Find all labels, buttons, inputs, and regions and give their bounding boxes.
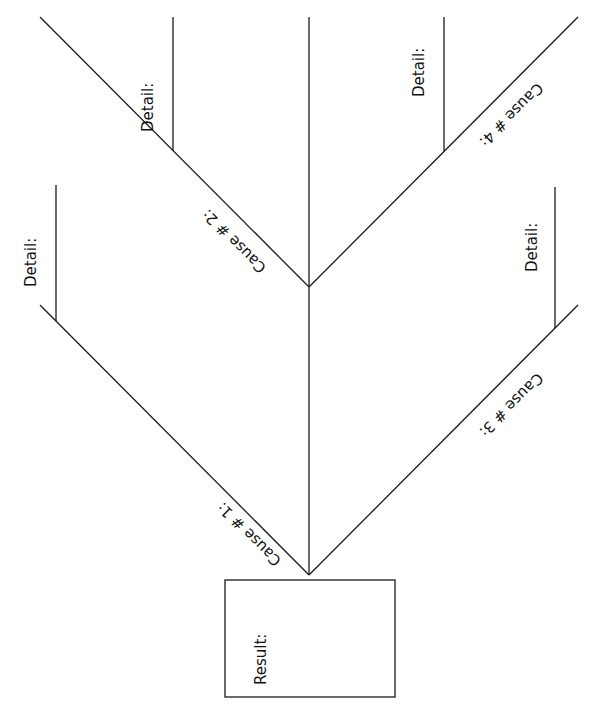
cause-2-label: Cause # 2:	[198, 206, 269, 277]
detail-1-label: Detail:	[22, 238, 40, 287]
result-label: Result:	[252, 634, 270, 685]
fishbone-diagram: Result: Detail: Detail: Detail: Detail: …	[0, 0, 601, 713]
detail-2-label: Detail:	[139, 83, 157, 132]
cause-2-bone	[40, 17, 309, 287]
cause-4-label: Cause # 4:	[476, 79, 547, 150]
cause-3-label: Cause # 3:	[476, 369, 547, 440]
cause-3-bone	[309, 305, 578, 575]
detail-3-label: Detail:	[523, 223, 541, 272]
result-box	[225, 580, 395, 697]
detail-4-label: Detail:	[410, 48, 428, 97]
cause-1-label: Cause # 1:	[213, 499, 284, 570]
cause-1-bone	[40, 305, 309, 575]
